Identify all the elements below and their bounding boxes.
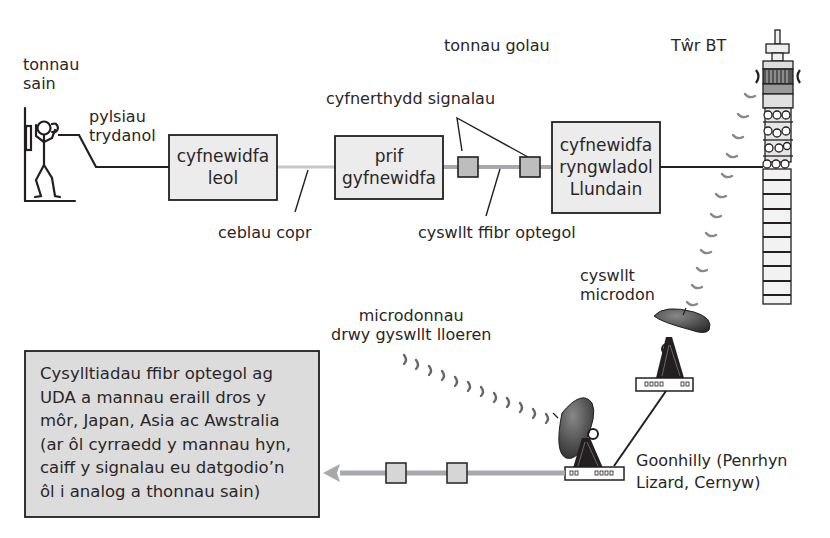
arrow-left-icon [323,464,340,482]
label-line: Goonhilly (Penrhyn [636,450,788,472]
signal-booster-2 [520,157,540,177]
info-box-text: Cysylltiadau ffibr optegol ag UDA a mann… [40,362,291,503]
booster-pointer-lines [457,118,528,157]
label-line: cyswllt [580,266,655,285]
cropped-caption [0,0,830,6]
microwave-dish-icon [636,308,710,391]
label-line: Lizard, Cernyw) [636,472,788,494]
label-electrical-pulses: pylsiau trydanol [89,107,156,145]
undersea-booster-1 [386,463,406,483]
satellite-wave-arcs [404,355,548,423]
copper-pointer-line [295,170,308,212]
label-line: trydanol [89,126,156,145]
box-line: Llundain [552,178,660,200]
label-line: sain [23,74,79,93]
info-line: Cysylltiadau ffibr optegol ag [40,362,291,386]
label-light-waves: tonnau golau [444,36,550,55]
info-line: môr, Japan, Asia ac Awstralia [40,409,291,433]
label-sound-waves: tonnau sain [23,55,79,93]
label-goonhilly: Goonhilly (Penrhyn Lizard, Cernyw) [636,450,788,494]
label-signal-boosters: cyfnerthydd signalau [326,89,495,108]
info-line: UDA a mannau eraill dros y [40,386,291,410]
label-line: pylsiau [89,107,156,126]
london-exchange-text: cyfnewidfa ryngwladol Llundain [552,134,660,200]
box-line: cyfnewidfa [169,145,277,167]
box-line: gyfnewidfa [335,167,443,189]
label-line: microdon [580,285,655,304]
person-on-phone-icon [25,108,75,201]
label-copper-cables: ceblau copr [218,223,312,242]
info-line: caiff y signalau eu datgodio’n [40,456,291,480]
label-satellite-microwaves: microdonnau drwy gyswllt lloeren [331,306,491,344]
label-bt-tower: Tŵr BT [671,36,726,55]
label-line: microdonnau [331,306,491,325]
local-exchange-text: cyfnewidfa leol [169,145,277,189]
main-exchange-text: prif gyfnewidfa [335,145,443,189]
label-line: tonnau [23,55,79,74]
box-line: leol [169,167,277,189]
label-microwave-link: cyswllt microdon [580,266,655,304]
info-line: (ar ôl cyrraedd y mannau hyn, [40,433,291,457]
label-line: drwy gyswllt lloeren [331,325,491,344]
satellite-dish-icon [553,398,624,480]
info-line: ôl i analog a thonnau sain) [40,480,291,504]
label-optical-fibre-link: cyswllt ffibr optegol [418,223,576,242]
box-line: prif [335,145,443,167]
box-line: ryngwladol [552,156,660,178]
box-line: cyfnewidfa [552,134,660,156]
fibre-pointer-line [486,169,500,216]
microwave-wave-arcs [687,94,755,305]
undersea-booster-2 [447,463,467,483]
signal-booster-1 [458,157,478,177]
